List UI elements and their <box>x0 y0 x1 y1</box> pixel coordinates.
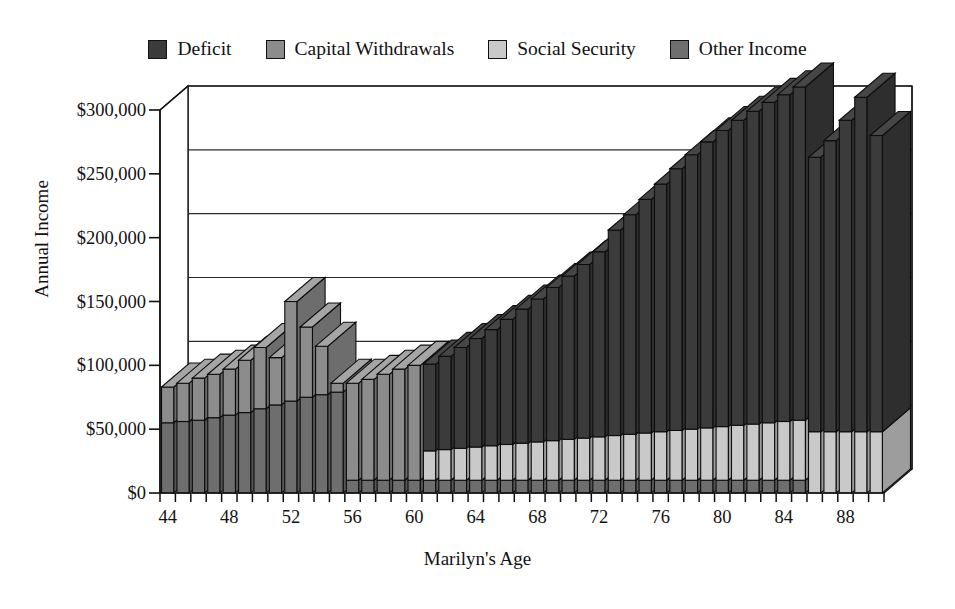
bar-segment-deficit <box>562 276 574 439</box>
bar-segment-capital-withdrawals <box>316 346 328 395</box>
bar-segment-capital-withdrawals <box>208 374 220 417</box>
bar-segment-side <box>882 112 910 432</box>
bar-segment-other-income <box>331 392 343 493</box>
bar-segment-social-security <box>701 428 713 480</box>
bar-segment-other-income <box>393 480 405 493</box>
bar-segment-capital-withdrawals <box>254 347 266 408</box>
bar-segment-other-income <box>300 397 312 493</box>
bar-segment-capital-withdrawals <box>377 374 389 480</box>
bar-column-age-90[interactable] <box>870 112 910 493</box>
bar-segment-other-income <box>516 480 528 493</box>
bar-segment-social-security <box>778 422 790 481</box>
bar-segment-social-security <box>439 450 451 481</box>
bar-segment-social-security <box>562 439 574 480</box>
bar-segment-other-income <box>778 480 790 493</box>
x-tick-label: 72 <box>590 507 609 528</box>
x-tick-label: 52 <box>282 507 301 528</box>
bar-segment-social-security <box>516 443 528 480</box>
bar-segment-deficit <box>593 252 605 437</box>
bar-segment-social-security <box>716 427 728 481</box>
bar-segment-other-income <box>470 480 482 493</box>
bar-segment-capital-withdrawals <box>331 383 343 392</box>
x-tick-label: 84 <box>775 507 794 528</box>
bar-segment-deficit <box>839 120 851 432</box>
bar-segment-deficit <box>608 230 620 436</box>
bar-segment-other-income <box>531 480 543 493</box>
bar-segment-social-security <box>685 429 697 480</box>
y-tick-label: $200,000 <box>10 227 146 248</box>
y-tick-label: $150,000 <box>10 291 146 312</box>
bar-segment-social-security <box>639 433 651 480</box>
bar-segment-social-security <box>547 441 559 481</box>
bar-segment-capital-withdrawals <box>223 369 235 415</box>
bar-segment-deficit <box>470 339 482 448</box>
bar-segment-other-income <box>577 480 589 493</box>
bar-segment-capital-withdrawals <box>192 378 204 420</box>
bar-segment-other-income <box>316 395 328 493</box>
x-tick-label: 60 <box>405 507 424 528</box>
bar-segment-deficit <box>762 102 774 422</box>
bar-segment-other-income <box>223 415 235 493</box>
bar-segment-other-income <box>701 480 713 493</box>
bar-segment-capital-withdrawals <box>300 327 312 397</box>
bar-segment-other-income <box>285 401 297 493</box>
bar-segment-social-security <box>731 425 743 480</box>
plot-area: $0$50,000$100,000$150,000$200,000$250,00… <box>0 0 955 609</box>
bar-segment-social-security <box>809 432 821 493</box>
bar-segment-other-income <box>670 480 682 493</box>
bar-segment-deficit <box>423 364 435 451</box>
bar-segment-deficit <box>716 130 728 426</box>
bar-segment-other-income <box>239 413 251 493</box>
bar-segment-deficit <box>731 120 743 425</box>
bar-segment-social-security <box>485 446 497 480</box>
bar-segment-other-income <box>639 480 651 493</box>
bar-segment-social-security <box>793 420 805 480</box>
bar-segment-deficit <box>685 155 697 429</box>
bar-segment-deficit <box>824 141 836 432</box>
bar-segment-other-income <box>162 423 174 493</box>
bar-segment-other-income <box>762 480 774 493</box>
bar-segment-social-security <box>500 444 512 480</box>
bar-segment-capital-withdrawals <box>239 360 251 412</box>
x-tick-label: 80 <box>713 507 732 528</box>
bar-segment-social-security <box>870 432 882 493</box>
bar-segment-social-security <box>839 432 851 493</box>
bar-segment-capital-withdrawals <box>408 365 420 480</box>
bar-segment-deficit <box>500 319 512 444</box>
bar-segment-deficit <box>624 215 636 435</box>
x-tick-label: 76 <box>651 507 670 528</box>
bar-segment-social-security <box>624 434 636 480</box>
bar-segment-other-income <box>377 480 389 493</box>
y-tick-label: $250,000 <box>10 163 146 184</box>
y-tick-label: $300,000 <box>10 100 146 121</box>
bar-segment-other-income <box>485 480 497 493</box>
y-tick-label: $100,000 <box>10 355 146 376</box>
bar-segment-deficit <box>778 95 790 422</box>
bar-segment-social-security <box>593 437 605 480</box>
bar-segment-deficit <box>747 111 759 424</box>
bar-segment-deficit <box>531 299 543 442</box>
bar-segment-social-security <box>470 447 482 480</box>
x-tick-label: 56 <box>343 507 362 528</box>
bar-segment-capital-withdrawals <box>177 383 189 421</box>
x-tick-label: 64 <box>467 507 486 528</box>
y-tick-label: $0 <box>10 483 146 504</box>
bar-segment-deficit <box>639 199 651 433</box>
bar-segment-other-income <box>654 480 666 493</box>
bar-segment-other-income <box>408 480 420 493</box>
bar-segment-other-income <box>624 480 636 493</box>
bar-segment-social-security <box>855 432 867 493</box>
bar-segment-capital-withdrawals <box>269 358 281 405</box>
bar-segment-deficit <box>855 97 867 431</box>
bar-segment-other-income <box>685 480 697 493</box>
bar-segment-other-income <box>500 480 512 493</box>
bar-segment-other-income <box>716 480 728 493</box>
bar-segment-other-income <box>192 420 204 493</box>
bar-segment-deficit <box>485 330 497 446</box>
bar-segment-capital-withdrawals <box>285 302 297 402</box>
bar-segment-deficit <box>454 347 466 448</box>
bar-segment-other-income <box>593 480 605 493</box>
bar-segment-social-security <box>824 432 836 493</box>
bar-segment-social-security <box>577 438 589 480</box>
x-tick-label: 44 <box>158 507 177 528</box>
